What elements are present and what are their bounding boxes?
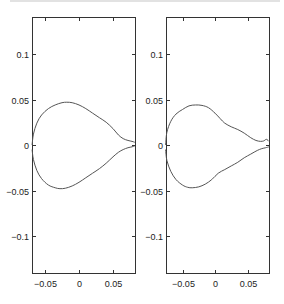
y-tick-label: 0 xyxy=(158,141,163,151)
x-tick-label: −0.05 xyxy=(34,279,57,289)
figure: −0.0500.050.10.050−0.05−0.1 −0.0500.050.… xyxy=(0,0,284,304)
y-tick-label: −0.05 xyxy=(140,187,163,197)
curve-lower xyxy=(32,146,135,189)
x-tick-label: 0.05 xyxy=(240,279,258,289)
y-tick-label: −0.1 xyxy=(11,232,29,242)
x-tick-label: 0.05 xyxy=(105,279,123,289)
axes-frame xyxy=(33,18,136,274)
x-tick-label: 0 xyxy=(77,279,82,289)
left-subplot: −0.0500.050.10.050−0.05−0.1 xyxy=(6,18,135,290)
y-tick-label: 0.1 xyxy=(16,50,29,60)
y-tick-label: 0.05 xyxy=(145,96,163,106)
curve-lower xyxy=(166,147,269,188)
right-subplot: −0.0500.050.10.050−0.05−0.1 xyxy=(140,18,269,290)
y-tick-label: −0.05 xyxy=(6,187,29,197)
y-tick-label: 0.05 xyxy=(11,96,29,106)
x-tick-label: −0.05 xyxy=(172,279,195,289)
y-tick-label: 0.1 xyxy=(150,50,163,60)
curve-upper xyxy=(166,105,269,145)
y-tick-label: −0.1 xyxy=(145,232,163,242)
y-tick-label: 0 xyxy=(24,141,29,151)
curve-upper xyxy=(32,102,135,145)
axes-frame xyxy=(167,18,270,274)
x-tick-label: 0 xyxy=(213,279,218,289)
